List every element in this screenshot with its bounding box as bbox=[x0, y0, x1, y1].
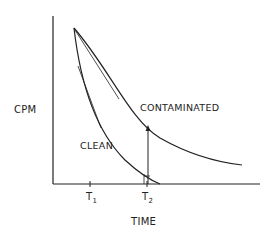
tangent-clean bbox=[78, 66, 101, 128]
decay-chart bbox=[0, 0, 279, 239]
y-axis-label: CPM bbox=[14, 104, 37, 115]
t2-label: T2 bbox=[142, 191, 153, 205]
t2-sub: 2 bbox=[148, 197, 153, 205]
arrow-head-icon bbox=[146, 125, 151, 131]
x-axis-label: TIME bbox=[131, 216, 156, 227]
t1-sub: 1 bbox=[92, 197, 97, 205]
contaminated-label: CONTAMINATED bbox=[140, 102, 219, 113]
t1-label: T1 bbox=[86, 191, 97, 205]
clean-label: CLEAN bbox=[80, 140, 113, 151]
tangent-contaminated bbox=[75, 30, 119, 99]
